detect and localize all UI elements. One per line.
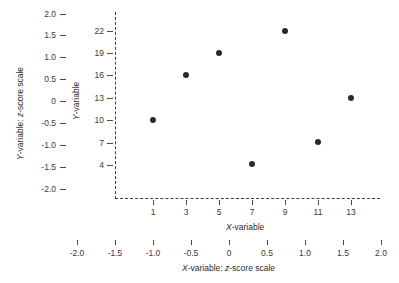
x-zscore-axis: -2.0 -1.5 -1.0 -0.5 0 0.5 1.0 1.5 2.0 [0, 0, 399, 283]
x-zscore-tickmark-6 [305, 240, 306, 245]
x-zscore-tick-7: 1.5 [326, 249, 360, 258]
x-zscore-tickmark-5 [267, 240, 268, 245]
x-zscore-tickmark-3 [191, 240, 192, 245]
x-zscore-tickmark-4 [229, 240, 230, 245]
x-zscore-tick-8: 2.0 [364, 249, 398, 258]
x-zscore-tick-2: -1.0 [136, 249, 170, 258]
x-zscore-tickmark-0 [77, 240, 78, 245]
x-zscore-tick-1: -1.5 [98, 249, 132, 258]
x-zscore-tickmark-2 [153, 240, 154, 245]
x-zscore-tick-3: -0.5 [174, 249, 208, 258]
scatter-plot-figure: 2.0 1.5 1.0 0.5 0 -0.5 -1.0 -1.5 -2.0 Y-… [0, 0, 399, 283]
x-zscore-tick-5: 0.5 [250, 249, 284, 258]
x-zscore-tickmark-8 [381, 240, 382, 245]
x-zscore-tick-4: 0 [212, 249, 246, 258]
x-zscore-tickmark-1 [115, 240, 116, 245]
x-zscore-axis-title: X-variable: z-score scale [182, 264, 275, 273]
x-zscore-axis-title-rest: -score scale [229, 263, 275, 273]
x-zscore-tickmark-7 [343, 240, 344, 245]
x-zscore-tick-6: 1.0 [288, 249, 322, 258]
x-zscore-tick-0: -2.0 [60, 249, 94, 258]
x-zscore-axis-title-mid: -variable: [188, 263, 225, 273]
